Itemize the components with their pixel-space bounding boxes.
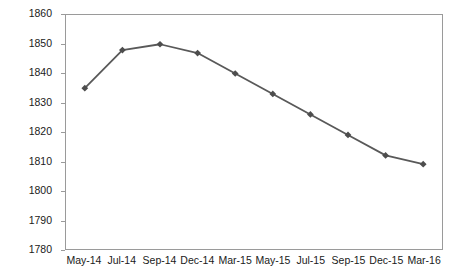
x-tick-label: Mar-15 <box>218 254 251 266</box>
x-tick-label: May-15 <box>255 254 290 266</box>
data-point-marker <box>420 161 427 168</box>
data-point-marker <box>157 41 164 48</box>
data-point-marker <box>345 132 352 139</box>
x-tick-label: Sep-15 <box>332 254 366 266</box>
y-tick-label: 1780 <box>29 244 52 255</box>
x-tick-label: Jul-15 <box>296 254 325 266</box>
x-tick-label: May-14 <box>66 254 101 266</box>
x-tick-label: Dec-14 <box>180 254 214 266</box>
y-tick-label: 1820 <box>29 126 52 137</box>
data-point-marker <box>382 152 389 159</box>
data-point-marker <box>307 111 314 118</box>
data-point-marker <box>269 91 276 98</box>
line-chart: Prices in - £ /Tonne 1860185018401830182… <box>0 0 462 280</box>
x-tick-label: Mar-16 <box>407 254 440 266</box>
y-tick-label: 1860 <box>29 8 52 19</box>
data-point-marker <box>194 50 201 57</box>
data-series-prices <box>66 15 442 249</box>
data-point-marker <box>232 70 239 77</box>
y-tick-label: 1810 <box>29 156 52 167</box>
x-tick-label: Dec-15 <box>369 254 403 266</box>
y-tick-mark <box>61 250 65 251</box>
x-axis-tick-labels: May-14Jul-14Sep-14Dec-14Mar-15May-15Jul-… <box>65 254 443 272</box>
series-line <box>85 44 423 164</box>
y-tick-label: 1850 <box>29 38 52 49</box>
x-tick-label: Jul-14 <box>107 254 136 266</box>
y-tick-label: 1790 <box>29 215 52 226</box>
y-tick-label: 1840 <box>29 67 52 78</box>
plot-area <box>65 14 443 250</box>
y-axis-tick-labels: 186018501840183018201810180017901780 <box>0 0 60 280</box>
y-tick-label: 1830 <box>29 97 52 108</box>
y-tick-label: 1800 <box>29 185 52 196</box>
x-tick-label: Sep-14 <box>143 254 177 266</box>
